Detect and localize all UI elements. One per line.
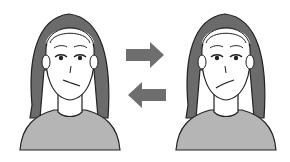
arrow-right-icon <box>126 42 164 68</box>
arrow-left-icon <box>128 82 166 108</box>
arrows <box>124 40 168 110</box>
face-right <box>170 0 280 162</box>
face-left <box>14 0 124 162</box>
